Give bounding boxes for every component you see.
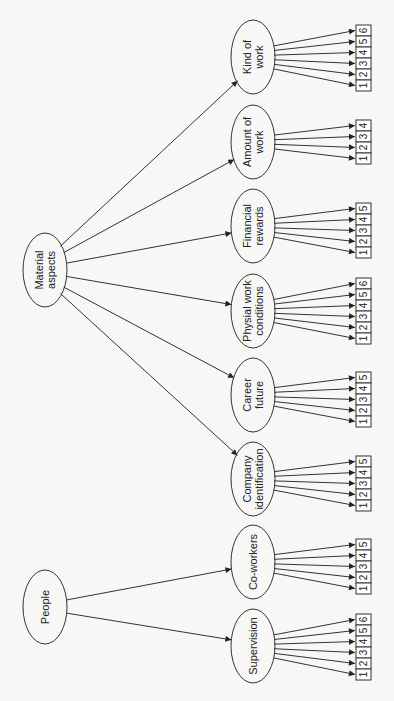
edge-to-rating-4 bbox=[274, 126, 355, 136]
node-label-line: Financial bbox=[241, 204, 253, 248]
edge-to-rating-1 bbox=[274, 149, 355, 159]
edge-to-rating-4 bbox=[274, 389, 355, 393]
rating-value: 4 bbox=[358, 302, 369, 308]
node-label-line: work bbox=[253, 45, 265, 70]
child-node-amount: Amount ofwork bbox=[231, 105, 275, 179]
rating-scale-financial: 54321 bbox=[274, 203, 371, 258]
rating-value: 3 bbox=[358, 396, 369, 402]
edge-material-kind bbox=[60, 81, 237, 246]
child-node-career: Careerfuture bbox=[231, 358, 275, 432]
rating-value: 4 bbox=[358, 49, 369, 55]
rating-value: 4 bbox=[358, 469, 369, 475]
edge-to-rating-5 bbox=[274, 378, 355, 388]
edge-to-rating-2 bbox=[274, 569, 355, 578]
rating-value: 3 bbox=[358, 480, 369, 486]
rating-value: 5 bbox=[358, 291, 369, 297]
child-node-company: Companyidentification bbox=[231, 442, 275, 516]
child-node-coworkers: Co-workers bbox=[231, 525, 275, 599]
edge-to-rating-3 bbox=[274, 397, 355, 400]
node-label: Supervision bbox=[247, 617, 259, 674]
rating-scale-amount: 4321 bbox=[274, 120, 371, 164]
rating-value: 5 bbox=[358, 541, 369, 547]
edge-to-rating-2 bbox=[274, 402, 355, 411]
edge-to-rating-4 bbox=[274, 220, 355, 224]
root-node-people: People bbox=[23, 570, 67, 644]
edge-to-rating-1 bbox=[274, 323, 355, 339]
edge-material-company bbox=[61, 294, 238, 456]
node-label-line: Physial work bbox=[241, 280, 253, 342]
rating-value: 3 bbox=[358, 313, 369, 319]
rating-scale-supervision: 654321 bbox=[274, 614, 371, 680]
rating-value: 3 bbox=[358, 649, 369, 655]
edge-to-rating-3 bbox=[274, 481, 355, 484]
node-label-line: rewards bbox=[253, 206, 265, 246]
edge-to-rating-4 bbox=[274, 556, 355, 560]
node-label-line: Kind of bbox=[241, 39, 253, 74]
rating-value: 2 bbox=[358, 71, 369, 77]
edge-to-rating-3 bbox=[274, 649, 355, 653]
node-label-line: Amount of bbox=[241, 116, 253, 167]
rating-value: 5 bbox=[358, 205, 369, 211]
rating-value: 3 bbox=[358, 563, 369, 569]
edge-to-rating-2 bbox=[274, 64, 355, 74]
edge-to-rating-5 bbox=[274, 42, 355, 51]
node-label-line: conditions bbox=[253, 286, 265, 336]
rating-value: 1 bbox=[358, 82, 369, 88]
edge-to-rating-2 bbox=[274, 318, 355, 328]
edge-to-rating-2 bbox=[274, 486, 355, 495]
edge-to-rating-1 bbox=[274, 237, 355, 252]
edge-to-rating-2 bbox=[274, 144, 355, 147]
rating-value: 1 bbox=[358, 671, 369, 677]
rating-value: 1 bbox=[358, 335, 369, 341]
rating-value: 1 bbox=[358, 418, 369, 424]
node-label-line: Supervision bbox=[247, 617, 259, 674]
node-label-line: future bbox=[253, 381, 265, 409]
edge-to-rating-3 bbox=[274, 60, 355, 64]
rating-value: 4 bbox=[358, 552, 369, 558]
rating-value: 5 bbox=[358, 374, 369, 380]
edge-to-rating-6 bbox=[274, 620, 355, 635]
child-node-financial: Financialrewards bbox=[231, 189, 275, 263]
edge-to-rating-4 bbox=[274, 642, 355, 645]
node-label: Physial workconditions bbox=[241, 280, 265, 342]
edge-to-rating-1 bbox=[274, 406, 355, 421]
rating-value: 2 bbox=[358, 144, 369, 150]
rating-value: 5 bbox=[358, 38, 369, 44]
rating-value: 2 bbox=[358, 574, 369, 580]
node-label-line: People bbox=[39, 590, 51, 624]
node-label: Co-workers bbox=[247, 533, 259, 590]
edge-to-rating-3 bbox=[274, 564, 355, 567]
edge-people-supervision bbox=[67, 613, 232, 640]
node-label-line: Company bbox=[241, 455, 253, 503]
nodes: MaterialaspectsPeopleKind ofwork654321Am… bbox=[23, 20, 371, 683]
edge-to-rating-5 bbox=[274, 295, 355, 305]
edge-to-rating-2 bbox=[274, 653, 355, 663]
rating-scale-career: 54321 bbox=[274, 372, 371, 427]
node-label: People bbox=[39, 590, 51, 624]
edge-material-physical bbox=[67, 276, 232, 304]
rating-value: 3 bbox=[358, 227, 369, 233]
edge-to-rating-1 bbox=[274, 573, 355, 588]
rating-value: 4 bbox=[358, 216, 369, 222]
node-label-line: work bbox=[253, 130, 265, 155]
rating-value: 4 bbox=[358, 385, 369, 391]
child-node-kind: Kind ofwork bbox=[231, 20, 275, 94]
rating-value: 1 bbox=[358, 249, 369, 255]
rating-scale-company: 54321 bbox=[274, 456, 371, 511]
edge-people-coworkers bbox=[67, 569, 232, 600]
rating-value: 1 bbox=[358, 585, 369, 591]
rating-value: 6 bbox=[358, 616, 369, 622]
node-label: Materialaspects bbox=[33, 250, 57, 289]
edge-to-rating-3 bbox=[274, 313, 355, 316]
rating-value: 1 bbox=[358, 502, 369, 508]
rating-scale-kind: 654321 bbox=[274, 25, 371, 91]
rating-value: 4 bbox=[358, 638, 369, 644]
rating-value: 3 bbox=[358, 133, 369, 139]
edge-material-amount bbox=[64, 159, 235, 252]
rating-value: 6 bbox=[358, 280, 369, 286]
rating-scale-physical: 654321 bbox=[274, 278, 371, 344]
rating-value: 5 bbox=[358, 627, 369, 633]
rating-value: 2 bbox=[358, 407, 369, 413]
node-label-line: aspects bbox=[45, 251, 57, 289]
rating-value: 3 bbox=[358, 60, 369, 66]
